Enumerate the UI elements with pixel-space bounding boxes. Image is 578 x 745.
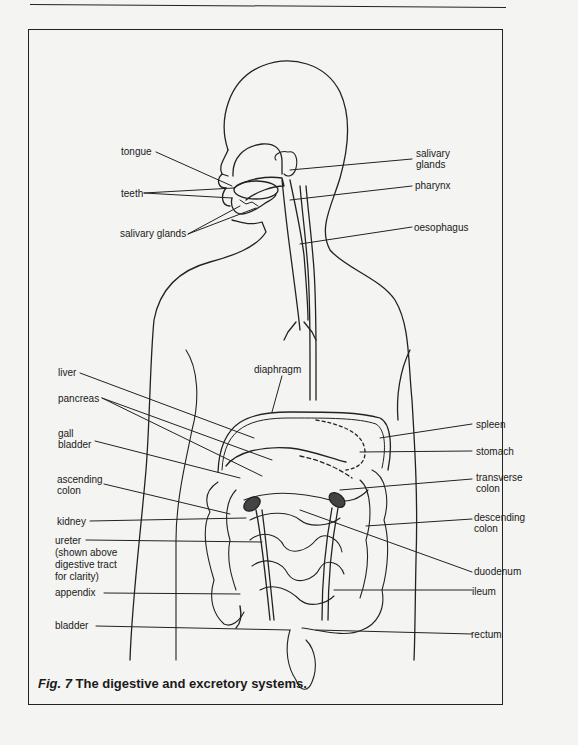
liver-stomach xyxy=(226,420,365,478)
figure-caption: Fig. 7 The digestive and excretory syste… xyxy=(38,676,307,691)
label-duodenum: duodenum xyxy=(474,566,521,577)
label-kidney: kidney xyxy=(57,516,86,527)
label-descending-colon-line2: colon xyxy=(474,523,498,534)
intestines xyxy=(205,470,387,689)
label-teeth: teeth xyxy=(121,188,143,199)
label-transverse-colon-line1: transverse xyxy=(476,472,523,483)
caption-text: The digestive and excretory systems. xyxy=(72,676,307,691)
caption-figure-number: Fig. 7 xyxy=(38,676,72,691)
label-diaphragm: diaphragm xyxy=(254,364,301,375)
label-spleen: spleen xyxy=(476,419,505,430)
label-descending-colon-line1: descending xyxy=(474,512,525,523)
label-ureter-line2: (shown above xyxy=(55,547,117,558)
label-liver: liver xyxy=(58,367,76,378)
body-outline xyxy=(130,61,417,660)
label-salivary-glands-upper-line1: salivary xyxy=(416,148,450,159)
label-ureter-line4: for clarity) xyxy=(55,571,99,582)
label-gall-bladder-line1: gall xyxy=(58,428,74,439)
label-ureter-line1: ureter xyxy=(55,535,81,546)
head-cavity xyxy=(231,144,296,214)
label-gall-bladder-line2: bladder xyxy=(58,439,91,450)
label-ileum: ileum xyxy=(472,586,496,597)
kidneys-ureters xyxy=(241,490,348,620)
label-bladder: bladder xyxy=(55,620,88,631)
label-transverse-colon-line2: colon xyxy=(476,483,500,494)
label-tongue: tongue xyxy=(121,146,152,157)
label-ascending-colon-line1: ascending xyxy=(57,474,103,485)
label-pharynx: pharynx xyxy=(415,180,451,191)
label-appendix: appendix xyxy=(55,587,96,598)
label-salivary-glands-upper-line2: glands xyxy=(416,159,445,170)
label-rectum: rectum xyxy=(471,629,502,640)
label-ureter-line3: digestive tract xyxy=(55,559,117,570)
label-salivary-glands-lower: salivary glands xyxy=(120,228,186,239)
label-ascending-colon-line2: colon xyxy=(57,485,81,496)
label-oesophagus: oesophagus xyxy=(414,222,469,233)
label-pancreas: pancreas xyxy=(58,393,99,404)
label-stomach: stomach xyxy=(476,446,514,457)
